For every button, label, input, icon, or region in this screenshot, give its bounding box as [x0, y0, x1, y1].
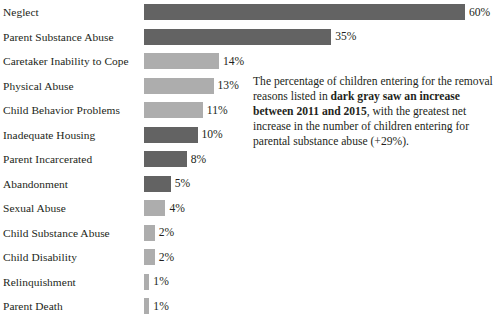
bar-value-label: 5% — [175, 177, 190, 190]
bar-value-label: 35% — [335, 30, 356, 43]
bar-category-label: Caretaker Inability to Cope — [3, 55, 141, 68]
bar-category-label: Sexual Abuse — [3, 202, 141, 215]
bar — [144, 78, 214, 94]
bar-value-label: 1% — [153, 300, 168, 313]
bar — [144, 249, 155, 265]
bar — [144, 176, 171, 192]
bar-with-value: 13% — [144, 78, 239, 94]
bar-with-value: 1% — [144, 274, 169, 290]
horizontal-bar-chart: Neglect60%Parent Substance Abuse35%Caret… — [0, 0, 498, 319]
bar-category-label: Neglect — [3, 6, 141, 19]
chart-row: Abandonment5% — [0, 172, 498, 197]
chart-row: Child Substance Abuse2% — [0, 221, 498, 246]
bar — [144, 298, 149, 314]
bar-value-label: 14% — [223, 55, 244, 68]
bar — [144, 225, 155, 241]
bar-category-label: Child Substance Abuse — [3, 226, 141, 239]
chart-row: Parent Death1% — [0, 294, 498, 319]
bar-value-label: 60% — [469, 6, 490, 19]
bar-with-value: 8% — [144, 151, 206, 167]
bar-with-value: 5% — [144, 176, 190, 192]
bar-with-value: 11% — [144, 102, 228, 118]
bar-with-value: 2% — [144, 249, 174, 265]
bar-category-label: Child Behavior Problems — [3, 104, 141, 117]
dark-gray-increase-note: The percentage of children entering for … — [253, 74, 493, 149]
bar-category-label: Physical Abuse — [3, 79, 141, 92]
chart-row: Sexual Abuse4% — [0, 196, 498, 221]
bar-category-label: Child Disability — [3, 251, 141, 264]
bar-category-label: Parent Death — [3, 300, 141, 313]
bar — [144, 4, 465, 20]
bar — [144, 53, 219, 69]
chart-row: Parent Substance Abuse35% — [0, 25, 498, 50]
bar-value-label: 1% — [153, 275, 168, 288]
bar-category-label: Relinquishment — [3, 275, 141, 288]
bar — [144, 151, 187, 167]
bar-with-value: 1% — [144, 298, 169, 314]
bar-category-label: Inadequate Housing — [3, 128, 141, 141]
bar-category-label: Parent Incarcerated — [3, 153, 141, 166]
bar-with-value: 60% — [144, 4, 490, 20]
chart-row: Caretaker Inability to Cope14% — [0, 49, 498, 74]
bar-value-label: 2% — [159, 251, 174, 264]
bar-category-label: Parent Substance Abuse — [3, 30, 141, 43]
bar-with-value: 14% — [144, 53, 244, 69]
bar-value-label: 2% — [159, 226, 174, 239]
chart-row: Relinquishment1% — [0, 270, 498, 295]
chart-row: Parent Incarcerated8% — [0, 147, 498, 172]
bar — [144, 274, 149, 290]
bar — [144, 102, 203, 118]
bar-category-label: Abandonment — [3, 177, 141, 190]
bar-with-value: 35% — [144, 29, 357, 45]
bar-value-label: 13% — [218, 79, 239, 92]
chart-row: Child Disability2% — [0, 245, 498, 270]
bar-with-value: 2% — [144, 225, 174, 241]
bar-value-label: 8% — [191, 153, 206, 166]
bar-value-label: 4% — [169, 202, 184, 215]
bar-value-label: 10% — [202, 128, 223, 141]
bar — [144, 200, 165, 216]
bar-value-label: 11% — [207, 104, 228, 117]
chart-row: Neglect60% — [0, 0, 498, 25]
figure-container: Neglect60%Parent Substance Abuse35%Caret… — [0, 0, 498, 319]
bar-with-value: 10% — [144, 127, 223, 143]
bar — [144, 127, 198, 143]
bar-with-value: 4% — [144, 200, 185, 216]
bar — [144, 29, 331, 45]
